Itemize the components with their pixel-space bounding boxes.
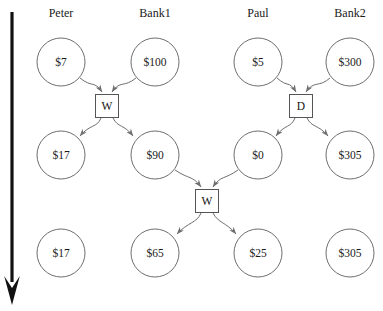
edges-out-of-transition-w2 xyxy=(177,213,236,234)
state-value: $5 xyxy=(252,56,264,68)
state-value: $17 xyxy=(52,149,69,161)
column-header-peter: Peter xyxy=(49,6,74,20)
edges-into-transition-w2 xyxy=(175,170,238,187)
state-value: $65 xyxy=(146,247,163,259)
transition-label-d1: D xyxy=(297,100,305,112)
edges-into-transition-w1 xyxy=(80,78,136,92)
column-header-paul: Paul xyxy=(247,6,268,20)
time-arrow xyxy=(4,12,20,305)
column-header-bank2: Bank2 xyxy=(334,6,365,20)
transition-label-w2: W xyxy=(202,195,213,207)
state-value: $305 xyxy=(339,149,362,161)
transition-label-w1: W xyxy=(102,100,113,112)
state-value: $90 xyxy=(146,149,163,161)
state-value: $100 xyxy=(144,56,167,68)
state-value: $0 xyxy=(252,149,264,161)
column-header-bank1: Bank1 xyxy=(139,6,170,20)
edges-into-transition-d1 xyxy=(277,78,330,92)
state-value: $300 xyxy=(339,56,362,68)
edges-out-of-transition-d1 xyxy=(276,118,328,136)
state-value: $25 xyxy=(249,247,266,259)
diagram-canvas: Peter Bank1 Paul Bank2 $7 $100 $5 $300 $… xyxy=(0,0,383,311)
edges-out-of-transition-w1 xyxy=(80,118,133,136)
state-value: $7 xyxy=(55,56,67,68)
state-value: $17 xyxy=(52,247,69,259)
state-value: $305 xyxy=(339,247,362,259)
